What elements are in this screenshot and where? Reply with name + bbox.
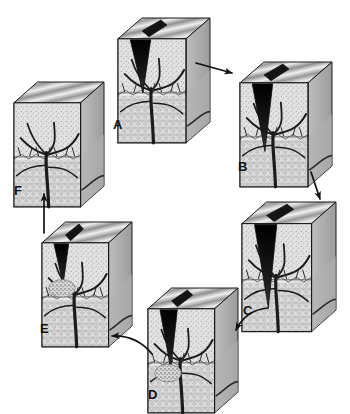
- tissue-block-b: [240, 62, 332, 187]
- block-superficial-layer: [242, 224, 312, 282]
- granulation-tissue: [49, 280, 76, 298]
- block-label-a: A: [113, 118, 122, 131]
- block-superficial-layer: [148, 309, 215, 365]
- tissue-block-f: [14, 82, 104, 207]
- block-label-d: D: [148, 388, 157, 401]
- block-label-c: C: [243, 304, 252, 317]
- block-label-b: B: [238, 160, 247, 173]
- cycle-diagram: [0, 0, 350, 414]
- block-superficial-layer: [14, 103, 81, 159]
- granulation-tissue: [155, 364, 182, 382]
- tissue-block-d: [148, 288, 238, 413]
- block-group: [14, 18, 336, 413]
- block-label-f: F: [14, 184, 22, 197]
- block-superficial-layer: [240, 83, 308, 139]
- block-label-e: E: [40, 322, 49, 335]
- tissue-block-a: [118, 18, 210, 143]
- tissue-block-e: [42, 222, 132, 347]
- block-superficial-layer: [118, 39, 186, 95]
- tissue-block-c: [242, 202, 336, 332]
